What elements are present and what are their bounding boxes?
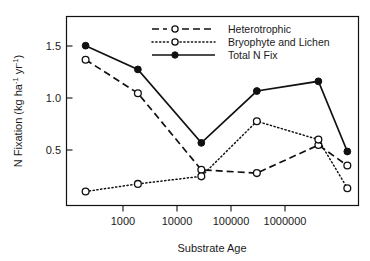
svg-text:N Fixation (kg ha-1 yr-1): N Fixation (kg ha-1 yr-1) [11,55,24,167]
y-axis-title-prefix: N Fixation (kg ha [12,83,24,167]
y-axis-title-sup1: -1 [11,77,20,84]
data-point [315,136,322,143]
data-point [315,78,322,85]
data-point [198,139,205,146]
y-axis-tick-labels: 0.5 1.0 1.5 [46,40,61,156]
y-axis-title-sup2: -1 [11,58,20,65]
legend-marker-heterotrophic [172,26,178,32]
y-axis-ticks [67,46,73,150]
legend-item-bryophyte-and-lichen: Bryophyte and Lichen [152,36,330,48]
series-layer [82,42,351,195]
series-line [86,46,348,152]
y-tick-label-2: 1.5 [46,40,61,52]
legend-item-total-n-fix: Total N Fix [152,49,278,61]
data-point [134,181,141,188]
data-point [344,162,351,169]
data-point [344,185,351,192]
data-point [253,170,260,177]
data-point [198,173,205,180]
x-axis-tick-labels: 1000 10000 100000 1000000 [111,215,307,227]
data-point [134,90,141,97]
y-tick-label-1: 1.0 [46,92,61,104]
legend-label-heterotrophic: Heterotrophic [228,23,291,35]
data-point [82,42,89,49]
data-point [253,88,260,95]
legend-label-bryophyte-and-lichen: Bryophyte and Lichen [228,36,330,48]
x-axis-ticks [123,206,285,212]
series-line [86,60,348,173]
legend-label-total-n-fix: Total N Fix [228,49,278,61]
chart-legend: Heterotrophic Bryophyte and Lichen Total… [152,23,330,61]
data-point [134,66,141,73]
x-tick-label-3: 1000000 [264,215,307,227]
y-tick-label-0: 0.5 [46,144,61,156]
chart-svg: 0.5 1.0 1.5 N Fixation (kg ha-1 yr-1) 10… [0,0,370,261]
y-axis-title-suffix: ) [12,55,24,59]
legend-item-heterotrophic: Heterotrophic [152,23,291,35]
data-point [82,56,89,63]
y-axis-title: N Fixation (kg ha-1 yr-1) [11,55,24,167]
legend-marker-total-n-fix [172,52,178,58]
legend-marker-bryophyte [172,39,178,45]
x-tick-label-2: 100000 [213,215,250,227]
x-axis-title: Substrate Age [177,242,246,254]
y-axis-title-mid: yr [12,65,24,78]
data-point [82,188,89,195]
data-point [253,118,260,125]
x-tick-label-0: 1000 [111,215,135,227]
data-point [344,148,351,155]
series-heterotrophic [82,56,351,176]
series-line [86,121,348,191]
data-point [198,166,205,173]
chart-figure: 0.5 1.0 1.5 N Fixation (kg ha-1 yr-1) 10… [0,0,370,261]
x-tick-label-1: 10000 [162,215,193,227]
